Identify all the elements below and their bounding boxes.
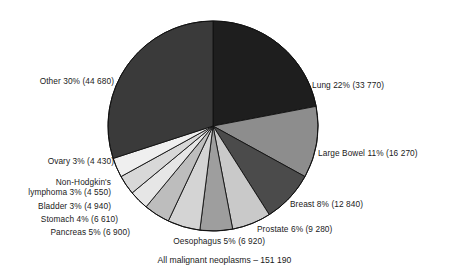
slice-label-oesophagus: Oesophagus 5% (6 920) <box>30 236 265 246</box>
slice-label-ovary: Ovary 3% (4 430) <box>0 156 114 166</box>
slice-label-non-hodgkins-line2: lymphoma 3% (4 550) <box>0 187 111 197</box>
slice-label-stomach: Stomach 4% (6 610) <box>0 214 118 224</box>
slice-label-non-hodgkins-lymphoma: Non-Hodgkin's lymphoma 3% (4 550) <box>0 177 111 198</box>
slice-label-prostate-text: Prostate 6% (9 280) <box>257 224 332 234</box>
slice-label-other: Other 30% (44 680) <box>0 76 114 86</box>
slice-label-pancreas: Pancreas 5% (6 900) <box>0 227 130 237</box>
slice-label-large-bowel: Large Bowel 11% (16 270) <box>318 148 418 158</box>
slice-label-ovary-text: Ovary 3% (4 430) <box>48 156 114 166</box>
slice-label-prostate: Prostate 6% (9 280) <box>257 224 332 234</box>
slice-label-stomach-text: Stomach 4% (6 610) <box>41 214 118 224</box>
slice-label-non-hodgkins-line1: Non-Hodgkin's <box>56 177 111 187</box>
pie-chart-figure: Lung 22% (33 770) Large Bowel 11% (16 27… <box>0 0 449 276</box>
slice-label-large-bowel-text: Large Bowel 11% (16 270) <box>318 148 418 158</box>
slice-label-breast-text: Breast 8% (12 840) <box>290 199 363 209</box>
chart-caption: All malignant neoplasms – 151 190 <box>0 255 449 265</box>
slice-label-lung-text: Lung 22% (33 770) <box>312 80 384 90</box>
slice-label-oesophagus-text: Oesophagus 5% (6 920) <box>173 236 265 246</box>
slice-label-pancreas-text: Pancreas 5% (6 900) <box>50 227 130 237</box>
slice-label-other-text: Other 30% (44 680) <box>40 76 114 86</box>
slice-label-bladder: Bladder 3% (4 940) <box>0 201 111 211</box>
slice-label-bladder-text: Bladder 3% (4 940) <box>38 201 111 211</box>
pie-slices-group <box>108 21 318 231</box>
slice-label-breast: Breast 8% (12 840) <box>290 199 363 209</box>
slice-label-lung: Lung 22% (33 770) <box>312 80 384 90</box>
